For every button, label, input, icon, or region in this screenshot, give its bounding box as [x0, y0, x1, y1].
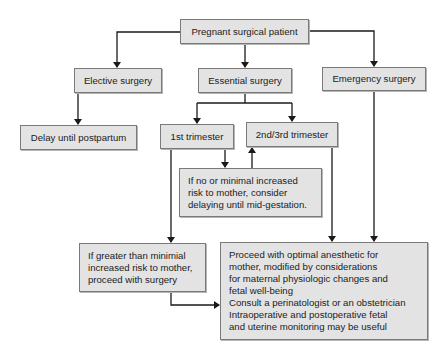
- node-label: Emergency surgery: [332, 73, 415, 85]
- node-label: Elective surgery: [84, 75, 152, 87]
- node-delay-until-postpartum: Delay until postpartum: [20, 125, 137, 150]
- node-delay-until-mid-gestation: If no or minimal increased risk to mothe…: [179, 168, 322, 217]
- node-label: If no or minimal increased risk to mothe…: [188, 175, 307, 211]
- node-label: 2nd/3rd trimester: [256, 129, 329, 141]
- node-elective-surgery: Elective surgery: [74, 68, 162, 93]
- node-optimal-anesthetic: Proceed with optimal anesthetic for moth…: [220, 242, 428, 340]
- node-essential-surgery: Essential surgery: [198, 68, 292, 93]
- node-proceed-with-surgery: If greater than minimial increased risk …: [79, 243, 206, 292]
- node-label: Delay until postpartum: [31, 132, 126, 144]
- node-label: Essential surgery: [208, 75, 282, 87]
- node-first-trimester: 1st trimester: [160, 124, 234, 149]
- node-second-third-trimester: 2nd/3rd trimester: [246, 122, 338, 147]
- node-label: If greater than minimial increased risk …: [88, 250, 193, 286]
- node-label: Pregnant surgical patient: [191, 26, 297, 38]
- node-label: 1st trimester: [171, 131, 224, 143]
- node-label: Proceed with optimal anesthetic for moth…: [229, 249, 406, 333]
- node-emergency-surgery: Emergency surgery: [322, 67, 426, 91]
- node-pregnant-surgical-patient: Pregnant surgical patient: [180, 19, 309, 44]
